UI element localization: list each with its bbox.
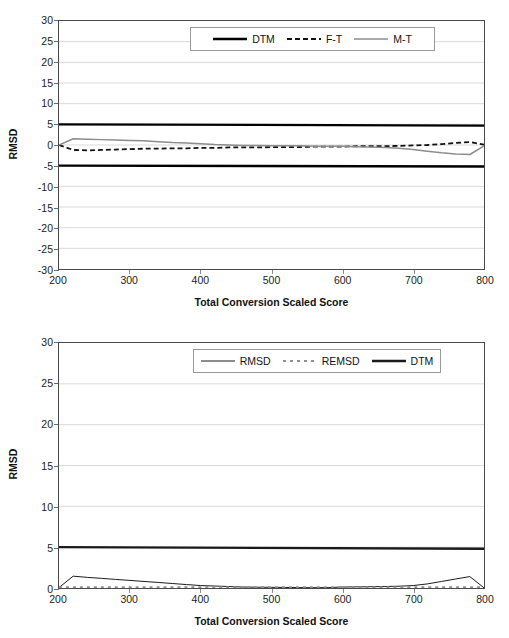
y-tick-label: 5 <box>47 542 53 554</box>
legend-label: RMSD <box>240 355 271 367</box>
x-tick-label: 400 <box>192 274 210 286</box>
x-tick-label: 600 <box>334 593 352 605</box>
x-tick-mark <box>414 270 415 274</box>
x-tick-label: 700 <box>405 593 423 605</box>
legend-item-remsd: REMSD <box>277 355 366 367</box>
y-tick-label: 5 <box>47 118 53 130</box>
series-line-dtm <box>59 547 484 549</box>
x-axis-ticks-bottom: 200300400500600700800 <box>58 593 485 607</box>
series-line-dtm-lower <box>59 166 484 167</box>
y-axis-ticks-bottom: 302520151050 <box>27 320 53 609</box>
plot-area-top <box>58 20 485 270</box>
y-tick-label: 25 <box>41 35 53 47</box>
y-tick-label: 25 <box>41 377 53 389</box>
legend-line-swatch-icon <box>201 356 235 366</box>
y-tick-label: -15 <box>38 202 53 214</box>
legend-label: M-T <box>393 33 412 45</box>
y-tick-label: 10 <box>41 97 53 109</box>
legend-top: DTMF-TM-T <box>190 27 435 51</box>
y-tick-label: 15 <box>41 460 53 472</box>
x-axis-title-top: Total Conversion Scaled Score <box>58 296 485 308</box>
y-tick-label: 30 <box>41 336 53 348</box>
x-tick-label: 200 <box>49 593 67 605</box>
figure-root: 302520151050-5-10-15-20-25-30 2003004005… <box>0 0 509 638</box>
y-tick-label: 0 <box>47 139 53 151</box>
y-tick-label: 15 <box>41 77 53 89</box>
y-tick-mark <box>54 589 59 590</box>
x-tick-label: 600 <box>334 274 352 286</box>
legend-item-dtm: DTM <box>366 355 440 367</box>
y-axis-title-top: RMSD <box>7 123 19 165</box>
legend-item-dtm: DTM <box>207 33 281 45</box>
x-tick-mark <box>343 270 344 274</box>
x-tick-mark <box>272 270 273 274</box>
x-tick-mark <box>414 589 415 593</box>
y-tick-label: 20 <box>41 418 53 430</box>
y-tick-label: -10 <box>38 181 53 193</box>
y-tick-label: 20 <box>41 56 53 68</box>
legend-line-swatch-icon <box>283 356 317 366</box>
x-tick-mark <box>200 589 201 593</box>
legend-bottom: RMSDREMSDDTM <box>193 349 441 373</box>
x-tick-label: 300 <box>120 593 138 605</box>
x-tick-label: 800 <box>476 274 494 286</box>
series-line-rmsd <box>59 576 484 588</box>
y-axis-ticks-top: 302520151050-5-10-15-20-25-30 <box>27 0 53 290</box>
y-tick-mark <box>54 270 59 271</box>
x-axis-title-bottom: Total Conversion Scaled Score <box>58 615 485 627</box>
y-axis-title-bottom: RMSD <box>7 443 19 485</box>
x-axis-ticks-top: 200300400500600700800 <box>58 274 485 288</box>
x-tick-mark <box>272 589 273 593</box>
legend-label: DTM <box>252 33 275 45</box>
y-tick-label: -5 <box>44 160 53 172</box>
legend-line-swatch-icon <box>213 34 247 44</box>
x-tick-label: 300 <box>120 274 138 286</box>
legend-line-swatch-icon <box>354 34 388 44</box>
chart-panel-bottom: 302520151050 200300400500600700800 Total… <box>0 320 509 638</box>
legend-item-rmsd: RMSD <box>195 355 277 367</box>
x-tick-label: 500 <box>263 274 281 286</box>
x-tick-label: 800 <box>476 593 494 605</box>
chart-panel-top: 302520151050-5-10-15-20-25-30 2003004005… <box>0 0 509 320</box>
y-tick-label: -20 <box>38 222 53 234</box>
x-tick-label: 700 <box>405 274 423 286</box>
x-tick-mark <box>200 270 201 274</box>
x-tick-label: 200 <box>49 274 67 286</box>
legend-label: DTM <box>411 355 434 367</box>
y-tick-label: -25 <box>38 243 53 255</box>
legend-label: REMSD <box>322 355 360 367</box>
x-tick-label: 400 <box>192 593 210 605</box>
x-tick-mark <box>343 589 344 593</box>
legend-item-m-t: M-T <box>348 33 418 45</box>
legend-line-swatch-icon <box>372 356 406 366</box>
series-line-m-t <box>59 139 484 155</box>
y-tick-label: 30 <box>41 14 53 26</box>
y-tick-label: 10 <box>41 501 53 513</box>
x-tick-mark <box>129 270 130 274</box>
legend-line-swatch-icon <box>287 34 321 44</box>
legend-label: F-T <box>326 33 342 45</box>
series-line-dtm <box>59 124 484 125</box>
x-tick-label: 500 <box>263 593 281 605</box>
plot-area-bottom <box>58 342 485 589</box>
legend-item-f-t: F-T <box>281 33 348 45</box>
x-tick-mark <box>129 589 130 593</box>
